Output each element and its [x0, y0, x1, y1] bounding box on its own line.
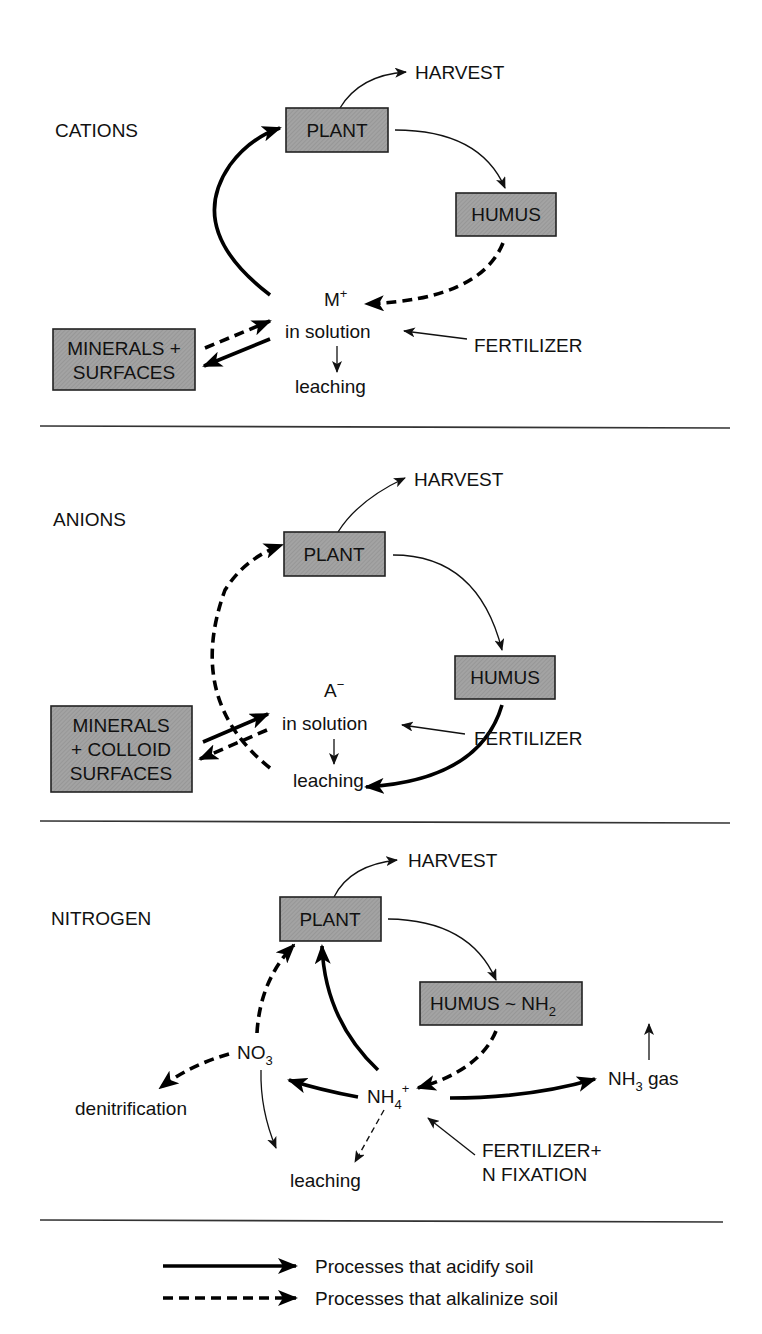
humus-box: HUMUS [455, 656, 555, 699]
humus-nh2-box: HUMUS ~ NH2 [420, 982, 582, 1025]
harvest-label: HARVEST [408, 850, 498, 871]
svg-text:HUMUS: HUMUS [470, 667, 540, 688]
plant-label: PLANT [306, 120, 368, 141]
plant-box: PLANT [286, 108, 388, 152]
legend-acidify-label: Processes that acidify soil [315, 1256, 534, 1277]
ammonium-to-leaching-arrow [355, 1110, 384, 1162]
nitrate-to-denitrification-arrow [160, 1054, 229, 1088]
leaching-label: leaching [295, 376, 366, 397]
harvest-label: HARVEST [415, 62, 505, 83]
svg-text:MINERALS +: MINERALS + [67, 338, 181, 359]
nitrate-to-leaching-arrow [261, 1070, 276, 1148]
harvest-arrow [340, 72, 406, 108]
minerals-box: MINERALS + COLLOID SURFACES [51, 706, 192, 792]
harvest-arrow [334, 860, 397, 897]
ammonium-to-plant-arrow [322, 946, 378, 1070]
plant-box: PLANT [280, 897, 381, 941]
svg-text:+ COLLOID: + COLLOID [71, 739, 171, 760]
svg-text:SURFACES: SURFACES [73, 362, 175, 383]
minerals-to-solution-arrow [203, 714, 268, 742]
plant-to-humus-arrow [388, 919, 496, 980]
plant-to-humus-arrow [395, 130, 505, 188]
humus-to-ammonium-arrow [418, 1031, 496, 1088]
in-solution-label: in solution [282, 713, 368, 734]
plant-box: PLANT [284, 532, 385, 576]
plant-to-humus-arrow [393, 555, 502, 650]
minerals-box: MINERALS + SURFACES [53, 329, 195, 390]
anions-section: ANIONS HARVEST PLANT HUMUS A− in solutio… [51, 469, 582, 792]
nitrogen-section: NITROGEN HARVEST PLANT HUMUS ~ NH2 NH4+ … [51, 850, 679, 1191]
divider [40, 1220, 723, 1222]
legend: Processes that acidify soil Processes th… [163, 1256, 558, 1309]
leaching-label: leaching [293, 770, 364, 791]
in-solution-label: in solution [285, 321, 371, 342]
n-fixation-label: N FIXATION [482, 1164, 587, 1185]
leaching-label: leaching [290, 1170, 361, 1191]
svg-text:PLANT: PLANT [299, 909, 361, 930]
ammonium-to-nitrate-arrow [289, 1080, 358, 1097]
humus-to-solution-arrow [366, 243, 503, 304]
divider [40, 426, 730, 428]
cations-section: CATIONS HARVEST PLANT HUMUS M+ in soluti… [53, 62, 582, 397]
nitrogen-title: NITROGEN [51, 908, 151, 929]
denitrification-label: denitrification [75, 1098, 187, 1119]
fertilizer-arrow [402, 725, 465, 734]
solution-to-minerals-arrow [204, 339, 270, 366]
harvest-label: HARVEST [414, 469, 504, 490]
anions-title: ANIONS [53, 509, 126, 530]
nitrate-label: NO3 [237, 1042, 273, 1068]
legend-alkalinize-label: Processes that alkalinize soil [315, 1288, 558, 1309]
nitrate-to-plant-arrow [257, 945, 294, 1033]
svg-text:MINERALS: MINERALS [72, 715, 169, 736]
cations-title: CATIONS [55, 120, 138, 141]
fertilizer-arrow [404, 331, 467, 339]
solution-to-plant-arrow [214, 128, 280, 295]
fertilizer-label: FERTILIZER [474, 728, 582, 749]
humus-box: HUMUS [456, 193, 556, 236]
ammonium-label: NH4+ [367, 1081, 409, 1112]
harvest-arrow [338, 478, 405, 532]
ammonia-gas-label: NH3 gas [608, 1068, 679, 1094]
anion-ion-label: A− [324, 677, 344, 701]
soil-nutrient-cycle-diagram: CATIONS HARVEST PLANT HUMUS M+ in soluti… [0, 0, 762, 1334]
fertilizer-label: FERTILIZER+ [482, 1140, 601, 1161]
ammonium-to-ammonia-arrow [450, 1079, 595, 1098]
fertilizer-label: FERTILIZER [474, 335, 582, 356]
svg-text:PLANT: PLANT [303, 544, 365, 565]
fertilizer-arrow [428, 1118, 475, 1155]
humus-label: HUMUS [471, 204, 541, 225]
cation-ion-label: M+ [324, 286, 347, 310]
divider [40, 821, 730, 823]
svg-text:SURFACES: SURFACES [70, 763, 172, 784]
